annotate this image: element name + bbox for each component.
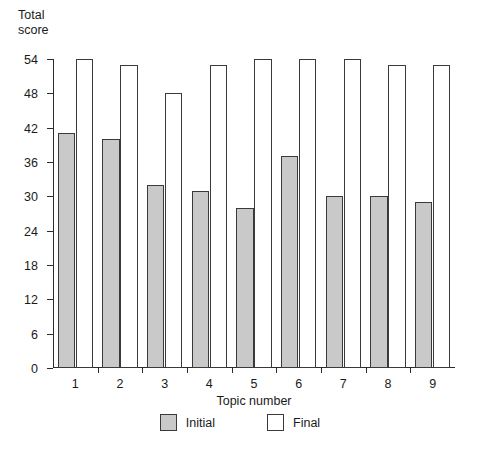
bar-final-topic-1 (76, 59, 93, 368)
x-tick (366, 368, 367, 373)
bar-initial-topic-2 (102, 139, 119, 368)
y-tick-label: 24 (24, 225, 38, 239)
x-tick (410, 368, 411, 373)
y-tick-label: 0 (31, 362, 38, 376)
bar-chart: Total score 061218243036424854 123456789… (0, 0, 480, 459)
y-tick-label: 36 (24, 156, 38, 170)
legend: Initial Final (0, 414, 480, 431)
x-tick-label: 3 (161, 377, 168, 391)
x-tick (142, 368, 143, 373)
bar-initial-topic-4 (192, 191, 209, 368)
y-axis-title: Total score (18, 8, 49, 38)
x-tick-label: 1 (72, 377, 79, 391)
y-tick-label: 30 (24, 190, 38, 204)
y-tick: 30 (47, 196, 53, 197)
x-tick-label: 4 (206, 377, 213, 391)
x-tick-label: 2 (117, 377, 124, 391)
legend-label-initial: Initial (186, 416, 215, 430)
x-tick (187, 368, 188, 373)
x-tick (321, 368, 322, 373)
x-axis-title: Topic number (53, 394, 455, 408)
legend-swatch-final (267, 414, 284, 431)
y-tick-label: 6 (31, 328, 38, 342)
bar-initial-topic-9 (415, 202, 432, 368)
y-tick: 12 (47, 299, 53, 300)
y-tick: 6 (47, 334, 53, 335)
bar-final-topic-8 (388, 65, 405, 368)
bar-final-topic-4 (210, 65, 227, 368)
bar-initial-topic-6 (281, 156, 298, 368)
x-tick (276, 368, 277, 373)
x-tick-label: 8 (385, 377, 392, 391)
y-tick: 36 (47, 162, 53, 163)
bar-initial-topic-5 (236, 208, 253, 368)
y-axis-line (53, 59, 54, 368)
x-tick (232, 368, 233, 373)
y-tick: 0 (47, 368, 53, 369)
plot-area: 061218243036424854 123456789 (53, 59, 455, 368)
legend-item-initial: Initial (160, 414, 215, 431)
bar-final-topic-9 (433, 65, 450, 368)
x-tick-label: 5 (251, 377, 258, 391)
bar-initial-topic-7 (326, 196, 343, 368)
y-tick-label: 12 (24, 293, 38, 307)
bar-final-topic-3 (165, 93, 182, 368)
bar-initial-topic-8 (370, 196, 387, 368)
y-tick: 18 (47, 265, 53, 266)
legend-label-final: Final (293, 416, 320, 430)
y-tick: 54 (47, 59, 53, 60)
y-tick: 48 (47, 93, 53, 94)
legend-swatch-initial (160, 414, 177, 431)
x-tick-label: 6 (295, 377, 302, 391)
x-tick-label: 9 (429, 377, 436, 391)
legend-item-final: Final (267, 414, 320, 431)
bar-initial-topic-3 (147, 185, 164, 368)
x-tick-label: 7 (340, 377, 347, 391)
y-tick-label: 54 (24, 53, 38, 67)
x-tick (98, 368, 99, 373)
bar-final-topic-5 (254, 59, 271, 368)
bar-final-topic-2 (120, 65, 137, 368)
y-tick: 42 (47, 128, 53, 129)
bar-initial-topic-1 (58, 133, 75, 368)
bar-final-topic-6 (299, 59, 316, 368)
y-tick-label: 42 (24, 122, 38, 136)
y-tick: 24 (47, 231, 53, 232)
y-tick-label: 18 (24, 259, 38, 273)
bar-final-topic-7 (344, 59, 361, 368)
y-tick-label: 48 (24, 87, 38, 101)
